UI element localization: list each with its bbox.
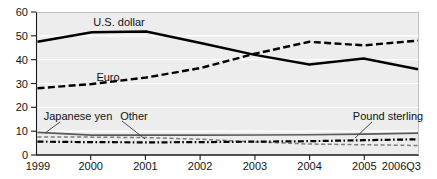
x-tick-label-2004: 2004 xyxy=(297,160,321,172)
x-tick-label-2000: 2000 xyxy=(78,160,102,172)
y-tick-labels: 60 50 40 30 20 10 0 xyxy=(16,6,28,161)
x-tick-label-1999: 1999 xyxy=(26,160,50,172)
x-tick-marks xyxy=(91,155,365,160)
y-tick-label-30: 30 xyxy=(16,78,28,90)
line-chart: 60 50 40 30 20 10 0 1999 2000 2001 2002 … xyxy=(0,0,437,179)
chart-canvas: 60 50 40 30 20 10 0 1999 2000 2001 2002 … xyxy=(0,0,437,179)
y-tick-label-40: 40 xyxy=(16,54,28,66)
series-label-us-dollar: U.S. dollar xyxy=(93,16,145,28)
y-tick-label-60: 60 xyxy=(16,6,28,18)
y-tick-marks xyxy=(31,12,37,155)
y-tick-label-10: 10 xyxy=(16,125,28,137)
x-tick-label-2001: 2001 xyxy=(133,160,157,172)
x-tick-labels: 1999 2000 2001 2002 2003 2004 2005 2006Q… xyxy=(26,160,421,172)
x-tick-label-2006q3: 2006Q3 xyxy=(382,160,421,172)
series-label-other: Other xyxy=(120,110,148,122)
series-label-pound-sterling: Pound sterling xyxy=(353,110,423,122)
series-label-euro: Euro xyxy=(96,71,119,83)
y-tick-label-20: 20 xyxy=(16,101,28,113)
series-label-japanese-yen: Japanese yen xyxy=(44,110,113,122)
y-tick-label-50: 50 xyxy=(16,30,28,42)
x-tick-label-2002: 2002 xyxy=(188,160,212,172)
x-tick-label-2003: 2003 xyxy=(243,160,267,172)
x-tick-label-2005: 2005 xyxy=(352,160,376,172)
